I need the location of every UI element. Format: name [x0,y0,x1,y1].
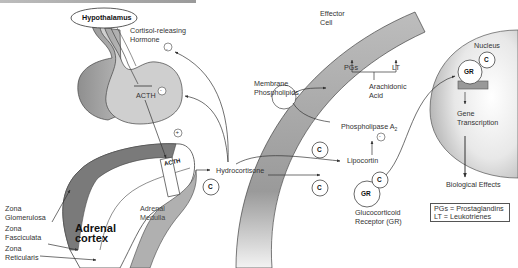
label-phospholipase: Phospholipase A2 [341,123,397,134]
label-arachidonic-2: Acid [369,92,383,101]
nucleus-cortisol-symbol: C [484,56,489,65]
cortisol-symbol: C [317,146,322,155]
minus-sign: - [166,47,168,52]
minus-sign: - [379,134,381,139]
label-lipocortin: Lipocortin [347,157,378,166]
label-zona-reticularis-2: Reticularis [5,254,39,263]
label-gr: GR [361,190,371,199]
cortisol-symbol: C [317,184,322,193]
cortisol-symbol: C [208,183,213,192]
label-gene-transcription-2: Transcription [457,119,498,128]
label-crh-line2: Hormone [130,36,160,45]
label-zona-fasciculata-2: Fasciculata [5,234,41,243]
label-acth-pituitary: ACTH [136,92,156,101]
nucleus-gr-label: GR [464,68,474,77]
label-effector-cell-2: Cell [320,19,332,28]
label-nucleus: Nucleus [474,42,500,51]
legend-item-lt: LT = Leukotrienes [434,213,506,221]
label-hydrocortisone: Hydrocortisone [216,167,264,176]
cell-membrane [236,12,425,268]
plus-sign: + [176,129,180,135]
label-gr-line2: Receptor (GR) [355,218,402,227]
nucleus-shape [430,30,518,178]
cortisol-symbol: C [377,176,382,185]
label-hypothalamus: Hypothalamus [82,14,132,23]
label-adrenal-medulla-2: Medulla [140,214,165,223]
label-adrenal-cortex-2: cortex [75,233,108,243]
label-pgs: PGs [344,64,358,73]
label-biological-effects: Biological Effects [446,181,501,190]
label-lt: LT [392,64,400,73]
minus-sign: - [160,88,162,93]
label-membrane-2: Phospholipids [254,89,299,98]
legend-box: PGs = Prostaglandins LT = Leukotrienes [430,203,510,222]
label-zona-glomerulosa-2: Glomerulosa [5,214,46,223]
